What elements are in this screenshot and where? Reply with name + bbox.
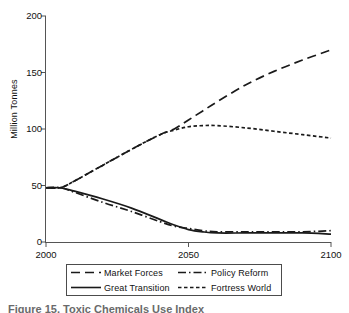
figure-caption-text: Figure 15. Toxic Chemicals Use Index bbox=[8, 304, 349, 313]
legend-swatch-dash-dot bbox=[178, 269, 208, 276]
x-axis-tick-label: 2000 bbox=[35, 250, 56, 260]
legend-swatch-dashed bbox=[71, 269, 101, 276]
legend-item-policy-reform: Policy Reform bbox=[174, 265, 281, 280]
legend-label: Fortress World bbox=[211, 283, 271, 293]
legend-item-market-forces: Market Forces bbox=[67, 265, 174, 280]
x-axis-tick-labels: 200020502100 bbox=[0, 0, 349, 260]
y-axis-title: Million Tonnes bbox=[9, 64, 19, 154]
legend-item-fortress-world: Fortress World bbox=[174, 280, 281, 295]
figure-container: 050100150200 200020502100 Million Tonnes… bbox=[0, 0, 349, 313]
legend-swatch-short-dashed bbox=[178, 284, 208, 291]
x-axis-tick-label: 2100 bbox=[320, 250, 341, 260]
chart-legend: Market Forces Policy Reform Great Transi… bbox=[66, 264, 282, 296]
legend-label: Policy Reform bbox=[211, 268, 268, 278]
figure-caption: Figure 15. Toxic Chemicals Use Index bbox=[8, 304, 349, 313]
legend-item-great-transition: Great Transition bbox=[67, 280, 174, 295]
legend-label: Great Transition bbox=[104, 283, 170, 293]
x-axis-tick-label: 2050 bbox=[178, 250, 199, 260]
legend-label: Market Forces bbox=[104, 268, 163, 278]
legend-swatch-solid bbox=[71, 284, 101, 291]
